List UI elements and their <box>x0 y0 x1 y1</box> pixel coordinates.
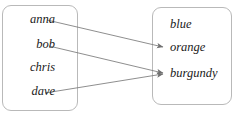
codomain-element-orange: orange <box>170 41 205 54</box>
domain-element-chris: chris <box>30 61 55 74</box>
codomain-element-blue: blue <box>170 18 192 31</box>
codomain-element-burgundy: burgundy <box>170 67 217 80</box>
mapping-diagram: anna bob chris dave blue orange burgundy <box>0 0 239 117</box>
domain-element-anna: anna <box>30 13 55 26</box>
domain-element-bob: bob <box>36 38 55 51</box>
codomain-set-box <box>152 7 232 105</box>
domain-element-dave: dave <box>31 85 55 98</box>
